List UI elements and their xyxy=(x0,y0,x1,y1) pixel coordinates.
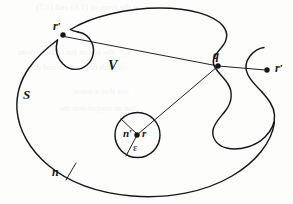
surface-boundary-main xyxy=(71,8,275,149)
label-q: q xyxy=(213,49,219,61)
point-r-prime-right xyxy=(264,67,269,72)
label-surface-S: S xyxy=(23,88,30,101)
ray-rprime-to-q xyxy=(64,37,218,67)
label-n-prime: n′ xyxy=(123,128,132,139)
ray-q-to-r xyxy=(138,67,217,134)
label-epsilon: ε xyxy=(133,142,138,153)
geometry-diagram-svg xyxy=(0,0,293,204)
indentation-connector-r-prime xyxy=(71,30,79,33)
label-n-outward: n xyxy=(52,166,59,178)
normal-tick-n xyxy=(66,163,76,180)
point-r-prime-top xyxy=(60,32,65,37)
label-volume-V: V xyxy=(108,59,117,73)
indentation-arc-r-prime xyxy=(56,32,93,69)
point-q xyxy=(215,63,220,68)
figure-canvas: n the form of (1.6) and (1.7) the is tha… xyxy=(0,0,293,204)
label-r-prime-top: r′ xyxy=(53,20,61,32)
label-r-prime-exterior: r′ xyxy=(275,62,283,74)
label-r-center: r xyxy=(142,128,146,139)
point-r-center xyxy=(134,132,139,137)
ray-q-to-exterior-rprime xyxy=(218,66,266,70)
